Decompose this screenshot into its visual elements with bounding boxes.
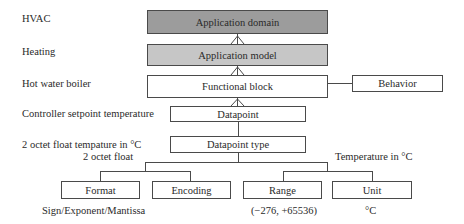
box-datapoint-type: Datapoint type (170, 136, 306, 153)
box-behavior: Behavior (352, 75, 443, 92)
note-unit: °C (365, 205, 376, 217)
branch-label-temperature: Temperature in °C (335, 151, 413, 163)
box-format: Format (61, 181, 140, 199)
label-hvac: HVAC (22, 13, 50, 25)
label-controller-setpoint: Controller setpoint temperature (22, 108, 154, 120)
note-format: Sign/Exponent/Mantissa (42, 205, 145, 217)
box-unit: Unit (332, 181, 412, 199)
box-application-domain: Application domain (147, 10, 328, 34)
box-datapoint: Datapoint (170, 106, 306, 122)
box-range: Range (243, 181, 322, 199)
branch-label-2-octet-float: 2 octet float (83, 151, 133, 163)
box-application-model: Application model (147, 44, 328, 66)
label-heating: Heating (22, 46, 55, 58)
label-hot-water-boiler: Hot water boiler (22, 78, 91, 90)
label-2-octet-float-temp: 2 octet float tempature in °C (22, 139, 141, 151)
box-encoding: Encoding (152, 181, 231, 199)
note-range: (−276, +65536) (251, 205, 317, 217)
box-functional-block: Functional block (147, 75, 328, 98)
